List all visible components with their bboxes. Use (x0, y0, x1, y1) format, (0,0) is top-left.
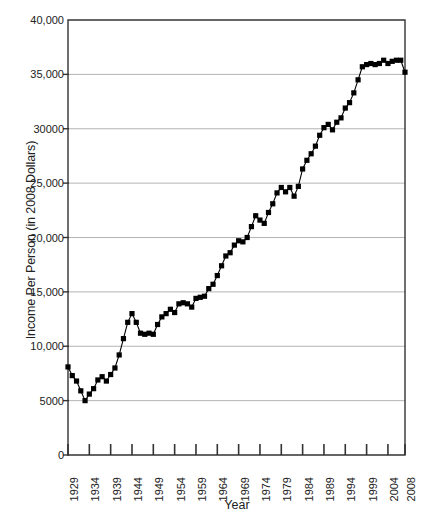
data-point-marker (74, 378, 79, 383)
data-point-marker (398, 58, 403, 63)
y-tick-label: 15,000 (8, 286, 64, 298)
data-point-marker (330, 127, 335, 132)
plot-area (0, 0, 428, 527)
data-point-marker (129, 311, 134, 316)
data-point-marker (296, 184, 301, 189)
x-axis-title: Year (68, 498, 406, 512)
data-point-marker (266, 210, 271, 215)
data-point-marker (245, 235, 250, 240)
data-point-marker (262, 221, 267, 226)
data-point-marker (202, 294, 207, 299)
y-tick-label: 20,000 (8, 232, 64, 244)
data-point-marker (219, 263, 224, 268)
y-tick-label: 25,000 (8, 177, 64, 189)
chart-container: Income Per Person (in 2008 Dollars) 0500… (0, 0, 428, 527)
data-point-marker (347, 100, 352, 105)
data-point-marker (309, 151, 314, 156)
data-point-marker (215, 273, 220, 278)
data-point-marker (189, 305, 194, 310)
y-tick-label: 35,000 (8, 68, 64, 80)
data-line (68, 60, 405, 400)
data-point-marker (87, 392, 92, 397)
data-point-marker (249, 224, 254, 229)
data-point-marker (274, 190, 279, 195)
data-point-marker (270, 201, 275, 206)
data-point-marker (287, 185, 292, 190)
y-tick-label: 5000 (8, 395, 64, 407)
data-point-marker (117, 352, 122, 357)
data-point-marker (351, 90, 356, 95)
data-point-marker (151, 332, 156, 337)
data-point-marker (300, 166, 305, 171)
data-point-marker (125, 320, 130, 325)
data-point-marker (134, 320, 139, 325)
y-tick-label: 40,000 (8, 14, 64, 26)
data-point-marker (155, 322, 160, 327)
x-tick-label: 2008 (405, 477, 417, 521)
data-point-marker (313, 144, 318, 149)
data-point-marker (78, 388, 83, 393)
data-point-marker (108, 372, 113, 377)
data-point-marker (355, 77, 360, 82)
y-tick-label: 10,000 (8, 340, 64, 352)
data-point-marker (91, 386, 96, 391)
data-point-marker (304, 158, 309, 163)
y-axis-tick-labels: 0500010,00015,00020,00025,0003000035,000… (4, 0, 64, 527)
data-point-marker (112, 365, 117, 370)
data-point-marker (104, 378, 109, 383)
data-point-marker (228, 250, 233, 255)
data-point-marker (326, 122, 331, 127)
data-point-marker (121, 336, 126, 341)
data-point-marker (317, 133, 322, 138)
y-tick-label: 30000 (8, 123, 64, 135)
data-point-marker (402, 70, 407, 75)
data-point-marker (65, 364, 70, 369)
data-point-marker (210, 282, 215, 287)
data-point-marker (82, 398, 87, 403)
data-point-marker (172, 310, 177, 315)
data-point-marker (343, 105, 348, 110)
data-point-marker (291, 194, 296, 199)
data-point-marker (338, 115, 343, 120)
x-axis-tick-labels: 1929193419391944194919541959196419691974… (0, 455, 428, 501)
data-point-marker (70, 373, 75, 378)
